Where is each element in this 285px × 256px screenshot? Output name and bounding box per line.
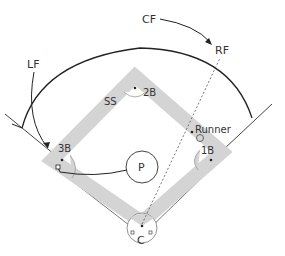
label-cf: CF bbox=[142, 13, 156, 26]
second-base-dot bbox=[134, 87, 137, 90]
third-base-bag bbox=[56, 165, 60, 169]
lf-tick bbox=[12, 124, 22, 128]
infield-band bbox=[52, 76, 222, 222]
lf-arrowhead bbox=[43, 142, 50, 148]
label-runner: Runner bbox=[195, 124, 232, 135]
label-p: P bbox=[138, 161, 145, 174]
label-2b: 2B bbox=[143, 87, 156, 98]
label-lf: LF bbox=[27, 58, 39, 71]
lf-arrow bbox=[31, 72, 48, 148]
label-ss: SS bbox=[104, 96, 117, 107]
third-base-dot bbox=[61, 159, 64, 162]
label-1b: 1B bbox=[201, 145, 214, 156]
outfield-arc bbox=[22, 48, 252, 128]
cf-arrowhead bbox=[205, 38, 212, 45]
label-rf: RF bbox=[215, 44, 229, 57]
label-3b: 3B bbox=[58, 143, 71, 154]
home-plate-dot bbox=[141, 225, 144, 228]
first-base-dot bbox=[210, 159, 213, 162]
runner-dot bbox=[191, 131, 194, 134]
label-c: C bbox=[137, 234, 145, 247]
baseball-field-diagram: LF CF RF SS 2B 3B 1B P C Runner bbox=[0, 0, 285, 256]
cf-arrow bbox=[160, 19, 210, 42]
